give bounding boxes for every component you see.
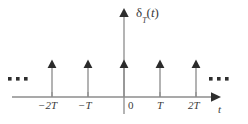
function-subscript: T [142,16,146,25]
tick-label-T: T [157,100,163,111]
ellipsis-left [8,77,28,81]
x-axis-label: t [218,104,221,115]
tick-label-minus-T: −T [78,100,92,111]
impulse-arrow-T [156,60,165,98]
tick-label-minus-2T: −2T [38,100,57,111]
impulse-arrow-2T [192,60,201,98]
function-label: δT(t) [136,6,159,23]
tick-label-2T: 2T [188,100,200,111]
impulse-arrow-minus-2T [48,60,57,98]
impulse-train-figure: δT(t) −2T −T 0 T 2T t [0,0,248,124]
tick-label-zero: 0 [128,100,134,111]
impulse-arrow-zero [120,60,129,98]
ellipsis-right [209,77,229,81]
impulse-arrow-minus-T [84,60,93,98]
y-axis-arrowhead [119,8,128,17]
impulse-train [48,60,201,98]
x-axis-arrowhead [211,92,221,102]
function-paren-close: ) [155,5,159,20]
